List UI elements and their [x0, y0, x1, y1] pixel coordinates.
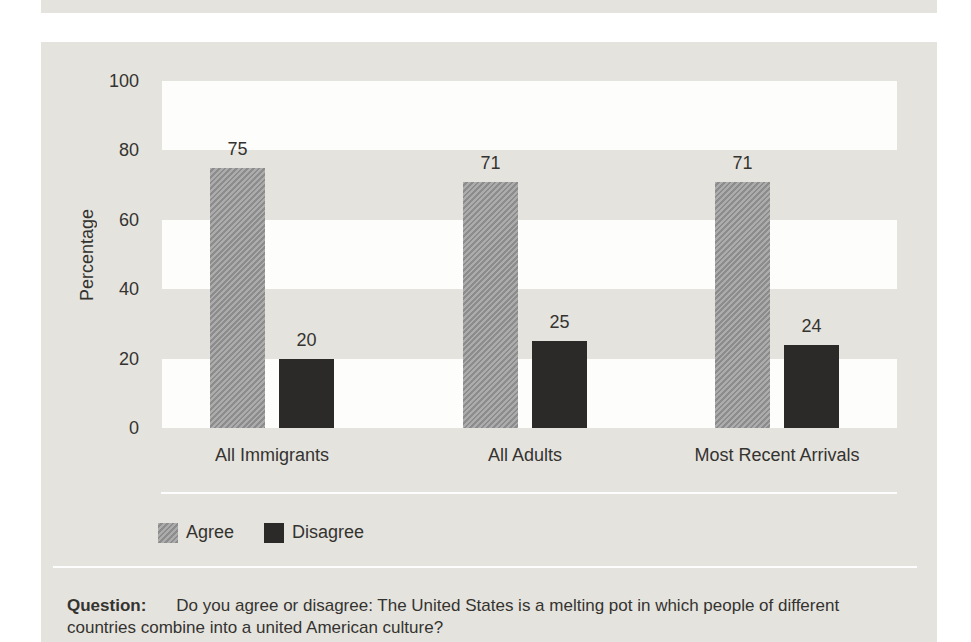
bar-disagree-group1	[279, 359, 334, 428]
legend-divider-line	[161, 492, 897, 494]
legend-label-disagree: Disagree	[292, 522, 364, 543]
scanned-figure-page: Percentage 0204060801007520All Immigrant…	[0, 0, 971, 642]
y-tick-label-20: 20	[77, 348, 139, 369]
legend: Agree Disagree	[158, 522, 364, 543]
bar-disagree-group3	[784, 345, 839, 428]
bar-agree-group2	[463, 182, 518, 428]
bar-value-agree-group3: 71	[732, 153, 752, 174]
x-category-label-3: Most Recent Arrivals	[694, 445, 859, 466]
top-strip	[41, 0, 937, 13]
question-line-1: Question:Do you agree or disagree: The U…	[67, 595, 933, 617]
legend-swatch-agree	[158, 523, 178, 543]
legend-label-agree: Agree	[186, 522, 234, 543]
question-text-line1: Do you agree or disagree: The United Sta…	[176, 596, 839, 615]
bar-value-agree-group2: 71	[480, 153, 500, 174]
question-divider-line	[53, 566, 917, 568]
bar-agree-group1	[210, 168, 265, 428]
y-tick-label-80: 80	[77, 140, 139, 161]
question-label: Question:	[67, 596, 146, 615]
question-text-line2: countries combine into a united American…	[67, 617, 933, 639]
x-category-label-2: All Adults	[488, 445, 562, 466]
y-axis-title: Percentage	[77, 81, 101, 428]
y-tick-label-100: 100	[77, 71, 139, 92]
y-tick-label-40: 40	[77, 279, 139, 300]
x-category-label-1: All Immigrants	[215, 445, 329, 466]
legend-swatch-disagree	[264, 523, 284, 543]
bar-value-disagree-group1: 20	[296, 330, 316, 351]
chart-panel: Percentage 0204060801007520All Immigrant…	[41, 42, 937, 642]
y-tick-label-60: 60	[77, 209, 139, 230]
bar-value-agree-group1: 75	[227, 139, 247, 160]
bar-agree-group3	[715, 182, 770, 428]
bar-value-disagree-group3: 24	[801, 316, 821, 337]
bar-disagree-group2	[532, 341, 587, 428]
plot-area: 0204060801007520All Immigrants7125All Ad…	[162, 81, 897, 428]
question-block: Question:Do you agree or disagree: The U…	[67, 595, 933, 639]
bar-value-disagree-group2: 25	[549, 312, 569, 333]
y-tick-label-0: 0	[77, 418, 139, 439]
